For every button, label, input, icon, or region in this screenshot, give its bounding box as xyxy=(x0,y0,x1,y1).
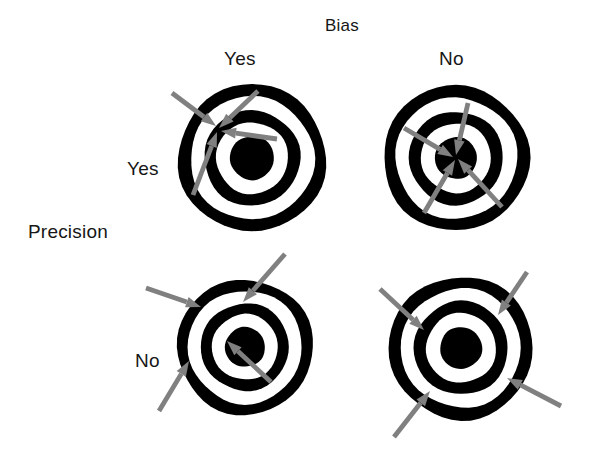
arrow-3 xyxy=(392,391,430,438)
arrow-shaft xyxy=(392,401,423,438)
arrow-shaft xyxy=(145,286,187,305)
arrow-shaft xyxy=(519,383,562,408)
bullseye-target-precision-no-bias-no xyxy=(378,271,562,439)
bullseye-target-precision-yes-bias-no xyxy=(385,85,531,230)
bullseye-target-precision-no-bias-yes xyxy=(145,252,313,415)
arrow-1 xyxy=(145,286,201,307)
bullseye-target-precision-yes-bias-yes xyxy=(171,84,327,231)
arrow-shaft xyxy=(157,373,183,413)
arrow-shaft xyxy=(171,91,206,119)
arrow-shaft xyxy=(504,271,529,304)
target-panels xyxy=(0,0,589,460)
arrow-3 xyxy=(157,361,189,412)
targets-canvas xyxy=(0,0,589,460)
